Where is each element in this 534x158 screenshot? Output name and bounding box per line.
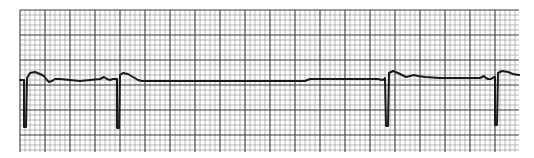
ecg-strip bbox=[0, 0, 534, 158]
